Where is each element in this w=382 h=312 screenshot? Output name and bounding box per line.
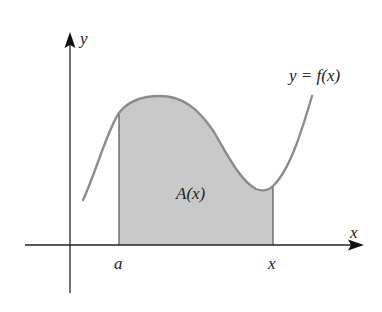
y-axis-label: y: [80, 30, 88, 47]
function-label: y = f(x): [289, 67, 340, 84]
upper-bound-label: x: [268, 255, 276, 272]
area-label: A(x): [176, 185, 205, 202]
area-function-diagram: y x a x A(x) y = f(x): [0, 0, 382, 312]
lower-bound-label: a: [114, 255, 123, 272]
x-axis-label: x: [350, 224, 358, 241]
shaded-area-region: [119, 96, 273, 245]
diagram-canvas: [0, 0, 382, 312]
